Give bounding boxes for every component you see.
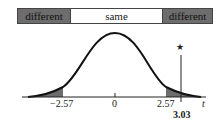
axis-variable: t (202, 98, 205, 109)
observed-value: 3.03 (173, 109, 191, 120)
tick-label-neg: −2.57 (50, 98, 73, 109)
tick-label-zero: 0 (112, 98, 117, 109)
star-icon: ★ (176, 42, 184, 52)
tick-label-pos: 2.57 (157, 98, 175, 109)
